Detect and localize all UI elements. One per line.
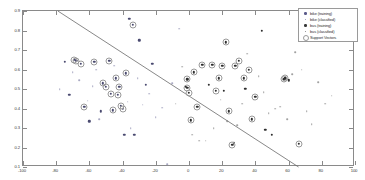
- x-tick-label: -100: [18, 168, 26, 173]
- y-tick-mark: [23, 11, 27, 12]
- y-tick-mark: [23, 148, 27, 149]
- x-tick-mark: [156, 161, 157, 165]
- y-tick-label: 0.5: [14, 86, 20, 91]
- x-tick-mark: [156, 11, 157, 15]
- support-vector-marker: [199, 61, 206, 68]
- support-vector-marker: [209, 61, 216, 68]
- support-vector-marker: [91, 58, 98, 65]
- support-vector-marker: [215, 75, 222, 82]
- support-vector-marker: [225, 108, 232, 115]
- support-vector-marker: [295, 140, 302, 147]
- support-vector-marker: [81, 103, 88, 110]
- data-point-marker: [241, 103, 243, 105]
- data-point-marker: [148, 93, 150, 95]
- data-point-marker: [324, 103, 326, 105]
- y-tick-mark: [23, 128, 27, 129]
- y-tick-mark: [23, 89, 27, 90]
- y-tick-mark: [349, 89, 353, 90]
- x-tick-mark: [56, 11, 57, 15]
- data-point-marker: [258, 76, 260, 78]
- x-tick-label: 40: [252, 168, 256, 173]
- legend-label: Support Vectors: [310, 35, 336, 41]
- data-point-marker: [92, 85, 94, 87]
- y-tick-mark: [349, 148, 353, 149]
- data-point-marker: [59, 88, 61, 90]
- support-vector-marker: [249, 116, 256, 123]
- data-point-marker: [127, 101, 129, 103]
- data-point-marker: [294, 51, 296, 53]
- y-tick-mark: [349, 70, 353, 71]
- data-point-marker: [311, 123, 313, 125]
- support-vector-marker: [119, 105, 126, 112]
- legend-marker-icon: [301, 35, 310, 41]
- x-tick-mark: [56, 161, 57, 165]
- support-vector-marker: [212, 87, 219, 94]
- x-tick-label: 80: [319, 168, 323, 173]
- legend-marker-icon: [301, 24, 310, 26]
- scatter-plot-figure: -100-80-60-40-20020406080100 0.10.20.30.…: [0, 0, 365, 180]
- y-tick-mark: [23, 50, 27, 51]
- support-vector-marker: [245, 66, 252, 73]
- support-vector-marker: [235, 57, 242, 64]
- data-point-marker: [220, 99, 222, 101]
- support-vector-marker: [103, 84, 110, 91]
- data-point-marker: [175, 103, 177, 105]
- y-tick-label: 0.9: [14, 8, 20, 13]
- x-tick-mark: [222, 161, 223, 165]
- x-tick-mark: [289, 161, 290, 165]
- x-tick-label: -20: [152, 168, 158, 173]
- x-tick-mark: [89, 11, 90, 15]
- y-tick-label: 0.4: [14, 105, 20, 110]
- y-tick-mark: [23, 70, 27, 71]
- data-point-marker: [198, 140, 200, 142]
- x-tick-mark: [289, 11, 290, 15]
- y-tick-label: 0.1: [14, 164, 20, 169]
- data-point-marker: [318, 81, 320, 83]
- x-tick-mark: [189, 11, 190, 15]
- x-tick-mark: [355, 161, 356, 165]
- legend-marker-icon: [301, 19, 310, 21]
- data-point-marker: [172, 82, 174, 84]
- data-point-marker: [291, 74, 293, 76]
- y-tick-mark: [23, 109, 27, 110]
- data-point-marker: [246, 53, 248, 55]
- data-point-marker: [213, 127, 215, 129]
- y-tick-label: 0.7: [14, 47, 20, 52]
- data-point-marker: [79, 79, 81, 81]
- support-vector-marker: [78, 60, 85, 67]
- support-vector-marker: [190, 69, 197, 76]
- data-point-marker: [72, 72, 74, 74]
- data-point-marker: [114, 65, 116, 67]
- y-tick-mark: [23, 31, 27, 32]
- support-vector-marker: [112, 75, 119, 82]
- y-tick-label: 0.8: [14, 27, 20, 32]
- support-vector-marker: [106, 57, 113, 64]
- legend: bike (training)bike (classified)bus (tra…: [298, 8, 358, 42]
- y-tick-mark: [349, 50, 353, 51]
- data-point-marker: [162, 107, 164, 109]
- support-vector-marker: [229, 141, 236, 148]
- x-tick-label: -60: [86, 168, 92, 173]
- y-tick-mark: [349, 109, 353, 110]
- x-tick-label: 60: [285, 168, 289, 173]
- legend-item: Support Vectors: [301, 35, 355, 41]
- x-tick-mark: [322, 161, 323, 165]
- support-vector-marker: [219, 62, 226, 69]
- data-point-marker: [331, 95, 333, 97]
- data-point-marker: [155, 116, 157, 118]
- data-point-marker: [226, 120, 228, 122]
- data-point-marker: [99, 118, 101, 120]
- x-tick-mark: [89, 161, 90, 165]
- x-tick-label: -40: [119, 168, 125, 173]
- legend-marker-icon: [301, 12, 310, 14]
- y-tick-label: 0.2: [14, 144, 20, 149]
- y-tick-label: 0.6: [14, 66, 20, 71]
- data-point-marker: [280, 106, 282, 108]
- support-vector-marker: [109, 107, 116, 114]
- support-vector-marker: [222, 39, 229, 46]
- data-point-marker: [167, 163, 169, 165]
- support-vector-marker: [187, 117, 194, 124]
- x-tick-mark: [222, 11, 223, 15]
- x-tick-label: -80: [52, 168, 58, 173]
- data-point-marker: [130, 127, 132, 129]
